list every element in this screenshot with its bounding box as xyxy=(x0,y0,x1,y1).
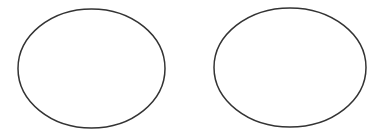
right-ellipse xyxy=(214,8,366,127)
diagram-canvas xyxy=(0,0,385,135)
diagram-svg xyxy=(0,0,385,135)
left-ellipse xyxy=(18,9,165,128)
